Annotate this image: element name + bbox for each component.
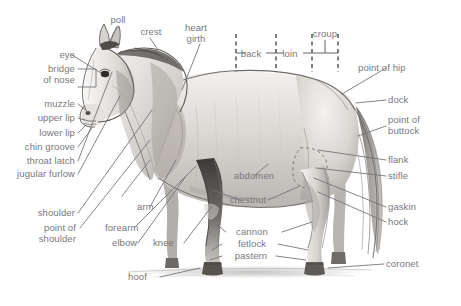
label-heart-girth-line1: heart: [185, 22, 207, 33]
label-eye: eye: [0, 49, 75, 60]
label-poll: poll: [98, 14, 138, 25]
label-fetlock: fetlock: [226, 238, 278, 249]
label-point-of-buttock: point of buttock: [388, 114, 454, 136]
label-point-of-buttock-line1: point of: [388, 114, 420, 125]
label-throat-latch: throat latch: [0, 155, 75, 166]
label-upper-lip: upper lip: [0, 112, 75, 123]
label-heart-girth: heart girth: [172, 22, 220, 44]
label-forearm: forearm: [105, 222, 138, 233]
label-dock: dock: [388, 94, 408, 105]
label-arm: arm: [137, 201, 154, 212]
label-point-of-shoulder-line2: shoulder: [39, 233, 76, 244]
label-muzzle: muzzle: [0, 98, 75, 109]
horse-anatomy-diagram: poll crest heart girth back loin croup p…: [0, 0, 461, 306]
label-gaskin: gaskin: [388, 201, 416, 212]
label-bridge-of-nose: bridge of nose: [0, 63, 75, 85]
label-abdomen: abdomen: [222, 170, 286, 181]
label-coronet: coronet: [386, 258, 418, 269]
label-elbow: elbow: [112, 237, 137, 248]
label-bridge-of-nose-line1: bridge: [48, 63, 75, 74]
label-chin-groove: chin groove: [0, 141, 75, 152]
label-chestnut: chestnut: [216, 194, 280, 205]
label-point-of-hip: point of hip: [358, 62, 406, 73]
label-point-of-buttock-line2: buttock: [388, 125, 419, 136]
label-cannon: cannon: [226, 226, 278, 237]
label-shoulder: shoulder: [0, 207, 75, 218]
label-loin: loin: [276, 48, 304, 59]
label-pastern: pastern: [224, 250, 278, 261]
label-jugular-furlow: jugular furlow: [0, 168, 75, 179]
label-knee: knee: [153, 237, 174, 248]
label-hock: hock: [388, 216, 408, 227]
label-croup: croup: [303, 28, 347, 39]
label-bridge-of-nose-line2: of nose: [43, 74, 75, 85]
label-crest: crest: [130, 26, 172, 37]
label-back: back: [236, 48, 266, 59]
label-heart-girth-line2: girth: [187, 33, 206, 44]
label-point-of-shoulder-line1: point of: [44, 222, 76, 233]
label-lower-lip: lower lip: [0, 127, 75, 138]
label-hoof: hoof: [128, 271, 147, 282]
label-flank: flank: [388, 154, 409, 165]
label-point-of-shoulder: point of shoulder: [0, 222, 76, 244]
label-stifle: stifle: [388, 170, 408, 181]
